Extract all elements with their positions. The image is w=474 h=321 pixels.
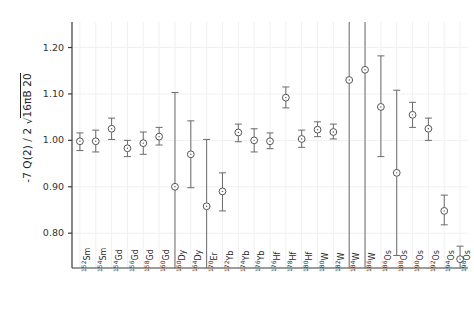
data-point-center-dot xyxy=(253,140,254,141)
isotope-mass-number: 160 xyxy=(160,261,167,272)
y-tick-label: 1.00 xyxy=(30,134,64,145)
isotope-mass-number: 154 xyxy=(96,261,103,272)
element-symbol: W xyxy=(368,253,377,261)
data-point-center-dot xyxy=(285,97,286,98)
data-point-center-dot xyxy=(364,69,365,70)
element-symbol: Os xyxy=(384,250,393,260)
x-tick-label: 182W xyxy=(337,253,346,272)
element-symbol: Sm xyxy=(83,248,92,261)
data-point-center-dot xyxy=(158,136,159,137)
isotope-mass-number: 188 xyxy=(397,261,404,272)
element-symbol: W xyxy=(337,253,346,261)
data-point-center-dot xyxy=(412,114,413,115)
isotope-mass-number: 180 xyxy=(318,261,325,272)
x-tick-label: 194Os xyxy=(447,250,456,272)
data-point-group xyxy=(346,20,353,318)
data-point-group xyxy=(219,173,226,211)
x-tick-label: 154Gd xyxy=(115,249,124,272)
x-tick-label: 176Hf xyxy=(273,252,282,272)
x-tick-label: 160Gd xyxy=(162,249,171,272)
y-tick-label: 1.20 xyxy=(30,42,64,53)
data-point-group xyxy=(76,133,83,151)
data-point-group xyxy=(156,127,163,145)
element-symbol: Dy xyxy=(194,250,203,261)
data-point-center-dot xyxy=(143,142,144,143)
isotope-mass-number: 154 xyxy=(112,261,119,272)
data-point-center-dot xyxy=(190,154,191,155)
isotope-mass-number: 184 xyxy=(350,261,357,272)
isotope-mass-number: 186 xyxy=(366,261,373,272)
isotope-mass-number: 176 xyxy=(255,261,262,272)
element-symbol: Yb xyxy=(226,251,235,261)
data-point-group xyxy=(330,124,337,139)
element-symbol: Gd xyxy=(146,249,155,260)
x-tick-label: 186Os xyxy=(384,250,393,272)
x-tick-label: 152Sm xyxy=(83,248,92,272)
isotope-mass-number: 158 xyxy=(144,261,151,272)
data-point-group xyxy=(171,93,178,318)
data-point-group xyxy=(425,118,432,140)
element-symbol: Os xyxy=(432,250,441,260)
x-tick-label: 178Hf xyxy=(289,252,298,272)
data-point-group xyxy=(393,90,400,255)
data-point-group xyxy=(187,121,194,188)
data-point-center-dot xyxy=(428,128,429,129)
element-symbol: Gd xyxy=(131,249,140,260)
x-tick-label: 170Er xyxy=(210,252,219,272)
data-point-center-dot xyxy=(396,172,397,173)
isotope-mass-number: 194 xyxy=(445,261,452,272)
data-point-group xyxy=(409,102,416,127)
data-point-group xyxy=(377,56,384,157)
x-tick-label: 180Hf xyxy=(305,252,314,272)
data-point-center-dot xyxy=(222,191,223,192)
data-point-group xyxy=(267,133,274,149)
element-symbol: Hf xyxy=(289,252,298,261)
isotope-mass-number: 164 xyxy=(191,261,198,272)
data-point-center-dot xyxy=(301,138,302,139)
data-point-center-dot xyxy=(333,131,334,132)
isotope-mass-number: 186 xyxy=(381,261,388,272)
x-tick-label: 176Yb xyxy=(257,251,266,272)
element-symbol: W xyxy=(321,253,330,261)
isotope-mass-number: 170 xyxy=(207,261,214,272)
data-point-group xyxy=(108,118,115,139)
data-point-center-dot xyxy=(127,148,128,149)
data-point-center-dot xyxy=(269,141,270,142)
data-point-center-dot xyxy=(174,186,175,187)
isotope-mass-number: 178 xyxy=(286,261,293,272)
element-symbol: Hf xyxy=(273,252,282,261)
element-symbol: Hf xyxy=(305,252,314,261)
data-point-center-dot xyxy=(79,141,80,142)
isotope-mass-number: 190 xyxy=(413,261,420,272)
data-point-group xyxy=(235,124,242,142)
x-tick-label: 180W xyxy=(321,253,330,272)
x-tick-label: 174Yb xyxy=(242,251,251,272)
element-symbol: Gd xyxy=(162,249,171,260)
x-tick-label: 184W xyxy=(352,253,361,272)
isotope-mass-number: 172 xyxy=(223,261,230,272)
isotope-mass-number: 156 xyxy=(128,261,135,272)
y-tick-label: 0.90 xyxy=(30,181,64,192)
isotope-mass-number: 174 xyxy=(239,261,246,272)
element-symbol: Os xyxy=(416,250,425,260)
data-point-group xyxy=(140,132,147,154)
data-point-center-dot xyxy=(444,210,445,211)
element-symbol: Gd xyxy=(115,249,124,260)
x-tick-label: 192Os xyxy=(432,250,441,272)
data-point-center-dot xyxy=(380,106,381,107)
isotope-mass-number: 152 xyxy=(80,261,87,272)
isotope-mass-number: 182 xyxy=(334,261,341,272)
element-symbol: Yb xyxy=(242,251,251,261)
data-point-group xyxy=(92,130,99,152)
data-point-center-dot xyxy=(238,132,239,133)
data-point-group xyxy=(251,129,258,152)
data-point-center-dot xyxy=(206,206,207,207)
data-point-group xyxy=(441,195,448,225)
data-point-center-dot xyxy=(95,141,96,142)
data-point-group xyxy=(298,130,305,147)
data-point-center-dot xyxy=(349,79,350,80)
element-symbol: Os xyxy=(463,250,472,260)
element-symbol: Yb xyxy=(257,251,266,261)
data-point-group xyxy=(282,87,289,108)
x-tick-label: 186W xyxy=(368,253,377,272)
